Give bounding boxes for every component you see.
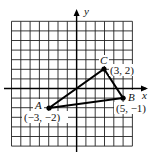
y-axis-label: y — [83, 5, 89, 17]
coordinate-plane: x y A (−3, −2) B (5, −1) C (3, 2) — [0, 0, 152, 155]
point-a — [46, 105, 51, 110]
point-c-coords: (3, 2) — [110, 64, 134, 77]
point-a-name: A — [34, 99, 42, 111]
point-c — [101, 66, 106, 71]
point-b-coords: (5, −1) — [116, 102, 146, 115]
x-axis-label: x — [141, 89, 147, 101]
point-b — [120, 95, 125, 100]
point-c-name: C — [100, 54, 108, 66]
y-axis-arrow-icon — [74, 9, 80, 16]
point-a-coords: (−3, −2) — [24, 111, 61, 124]
